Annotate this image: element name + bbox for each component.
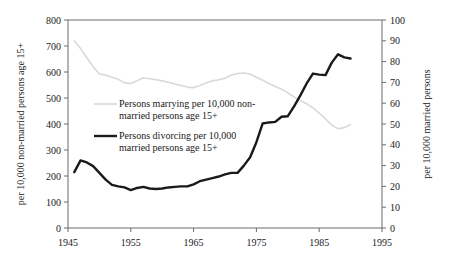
x-tick-label: 1985 bbox=[309, 237, 329, 248]
x-tick-label: 1975 bbox=[246, 237, 266, 248]
left-tick-label: 800 bbox=[46, 15, 61, 26]
right-tick-label: 90 bbox=[390, 35, 400, 46]
legend-label-divorce-line1: Persons divorcing per 10,000 bbox=[119, 130, 236, 141]
chart-canvas: 0100200300400500600700800 01020304050607… bbox=[0, 0, 451, 263]
right-tick-label: 60 bbox=[390, 98, 400, 109]
right-axis-ticks bbox=[382, 20, 386, 228]
x-axis-ticks bbox=[68, 228, 382, 232]
left-tick-label: 700 bbox=[46, 41, 61, 52]
right-tick-label: 100 bbox=[390, 15, 405, 26]
left-tick-label: 200 bbox=[46, 171, 61, 182]
right-tick-label: 70 bbox=[390, 77, 400, 88]
y2-axis-title: per 10,000 married persons bbox=[421, 69, 432, 179]
x-axis-tick-labels: 194519551965197519851995 bbox=[58, 237, 392, 248]
left-axis-ticks bbox=[64, 20, 68, 228]
x-tick-label: 1995 bbox=[372, 237, 392, 248]
right-tick-label: 50 bbox=[390, 119, 400, 130]
left-tick-label: 300 bbox=[46, 145, 61, 156]
legend-label-divorce-line2: married persons age 15+ bbox=[119, 142, 218, 153]
y-axis-title: per 10,000 non-married persons age 15+ bbox=[15, 43, 26, 206]
series-divorce bbox=[74, 54, 350, 190]
x-tick-label: 1955 bbox=[121, 237, 141, 248]
left-tick-label: 100 bbox=[46, 197, 61, 208]
chart-legend: Persons marrying per 10,000 non- married… bbox=[94, 98, 255, 153]
x-tick-label: 1965 bbox=[184, 237, 204, 248]
chart-figure: 0100200300400500600700800 01020304050607… bbox=[0, 0, 451, 263]
left-tick-label: 0 bbox=[56, 223, 61, 234]
right-tick-label: 80 bbox=[390, 56, 400, 67]
right-tick-label: 0 bbox=[390, 223, 395, 234]
left-tick-label: 600 bbox=[46, 67, 61, 78]
x-tick-label: 1945 bbox=[58, 237, 78, 248]
right-tick-label: 20 bbox=[390, 181, 400, 192]
right-axis-tick-labels: 0102030405060708090100 bbox=[390, 15, 405, 234]
left-tick-label: 500 bbox=[46, 93, 61, 104]
legend-label-marriage-line1: Persons marrying per 10,000 non- bbox=[119, 98, 255, 109]
left-axis-tick-labels: 0100200300400500600700800 bbox=[46, 15, 61, 234]
plot-frame bbox=[68, 20, 382, 228]
right-tick-label: 40 bbox=[390, 139, 400, 150]
right-tick-label: 10 bbox=[390, 202, 400, 213]
right-tick-label: 30 bbox=[390, 160, 400, 171]
legend-label-marriage-line2: married persons age 15+ bbox=[119, 110, 218, 121]
left-tick-label: 400 bbox=[46, 119, 61, 130]
